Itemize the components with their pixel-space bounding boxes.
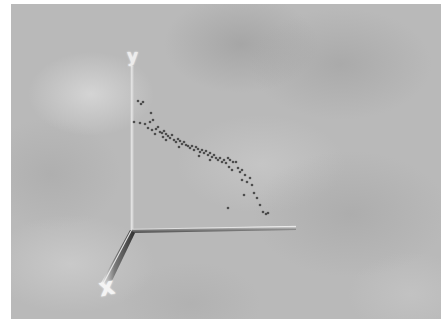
data-point bbox=[155, 128, 158, 131]
data-point bbox=[237, 167, 240, 170]
data-point bbox=[219, 157, 222, 160]
data-point bbox=[207, 154, 210, 157]
data-point bbox=[165, 139, 168, 142]
data-point bbox=[142, 101, 145, 104]
data-point bbox=[152, 119, 155, 122]
data-point bbox=[243, 194, 246, 197]
data-point bbox=[140, 103, 143, 106]
data-point bbox=[161, 132, 164, 135]
data-point bbox=[171, 134, 174, 137]
data-point bbox=[227, 157, 230, 160]
data-point bbox=[151, 129, 154, 132]
data-point bbox=[150, 112, 153, 115]
data-point bbox=[256, 197, 259, 200]
data-point bbox=[253, 192, 256, 195]
data-point bbox=[241, 179, 244, 182]
data-point bbox=[223, 159, 226, 162]
y-axis-label: y bbox=[127, 46, 138, 66]
data-point bbox=[147, 127, 150, 130]
data-point bbox=[205, 150, 208, 153]
data-point bbox=[198, 155, 201, 158]
data-point bbox=[167, 135, 170, 138]
z-axis bbox=[132, 226, 296, 233]
data-point bbox=[249, 177, 252, 180]
data-point bbox=[228, 166, 231, 169]
data-point bbox=[177, 138, 180, 141]
data-point bbox=[165, 133, 168, 136]
data-point bbox=[229, 159, 232, 162]
data-point bbox=[137, 100, 140, 103]
data-point bbox=[244, 174, 247, 177]
data-point bbox=[262, 211, 265, 214]
data-point bbox=[203, 152, 206, 155]
data-point bbox=[195, 146, 198, 149]
data-point bbox=[187, 145, 190, 148]
data-point bbox=[178, 146, 181, 149]
data-point bbox=[181, 143, 184, 146]
data-point bbox=[133, 121, 136, 124]
data-point bbox=[211, 156, 214, 159]
data-points bbox=[133, 100, 270, 216]
data-point bbox=[231, 169, 234, 172]
data-point bbox=[149, 121, 152, 124]
data-point bbox=[235, 161, 238, 164]
data-point bbox=[193, 149, 196, 152]
data-point bbox=[197, 148, 200, 151]
data-point bbox=[221, 161, 224, 164]
scatter-3d-plot bbox=[0, 0, 448, 329]
data-point bbox=[201, 149, 204, 152]
data-point bbox=[162, 136, 165, 139]
data-point bbox=[239, 171, 242, 174]
data-point bbox=[179, 140, 182, 143]
data-point bbox=[246, 181, 249, 184]
data-point bbox=[232, 161, 235, 164]
data-point bbox=[213, 154, 216, 157]
data-point bbox=[215, 157, 218, 160]
data-point bbox=[154, 133, 157, 136]
data-point bbox=[199, 151, 202, 154]
data-point bbox=[225, 162, 228, 165]
data-point bbox=[163, 130, 166, 133]
data-point bbox=[209, 159, 212, 162]
data-point bbox=[267, 212, 270, 215]
data-point bbox=[251, 184, 254, 187]
data-point bbox=[189, 147, 192, 150]
data-point bbox=[227, 207, 230, 210]
data-point bbox=[259, 204, 262, 207]
data-point bbox=[217, 159, 220, 162]
data-point bbox=[139, 122, 142, 125]
data-point bbox=[173, 139, 176, 142]
data-point bbox=[183, 141, 186, 144]
data-point bbox=[191, 145, 194, 148]
data-point bbox=[209, 152, 212, 155]
data-point bbox=[241, 169, 244, 172]
data-point bbox=[157, 126, 160, 129]
data-point bbox=[144, 123, 147, 126]
data-point bbox=[175, 141, 178, 144]
y-axis bbox=[131, 66, 134, 232]
data-point bbox=[169, 137, 172, 140]
